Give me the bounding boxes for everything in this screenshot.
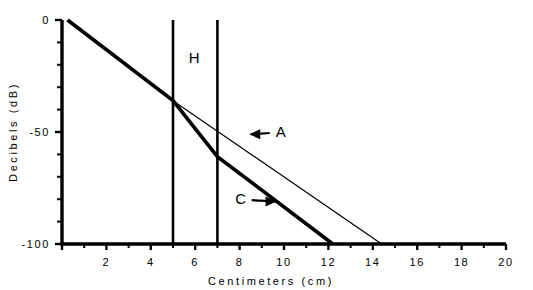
chart-canvas: HAC 24681012141618200-50-100 Centimeters… (0, 0, 533, 290)
x-axis-tick-label: 8 (236, 256, 244, 268)
chart-figure: HAC 24681012141618200-50-100 Centimeters… (0, 0, 533, 290)
x-axis-title: Centimeters (cm) (208, 275, 334, 287)
annotation-arrow-head-a (251, 130, 260, 138)
annotation-label-c: C (235, 190, 246, 207)
annotation-label-h: H (189, 49, 200, 66)
data-series-group (68, 20, 382, 244)
x-axis-tick-label: 18 (454, 256, 469, 268)
annotation-label-a: A (276, 123, 286, 140)
x-axis-tick-label: 20 (498, 256, 513, 268)
x-axis-tick-label: 6 (191, 256, 199, 268)
x-axis-tick-label: 14 (365, 256, 380, 268)
y-axis-tick-label: 0 (42, 14, 50, 26)
x-axis-tick-label: 12 (321, 256, 336, 268)
y-axis-title: Decibels (dB) (7, 82, 19, 182)
x-axis-tick-label: 16 (409, 256, 424, 268)
y-axis-tick-label: -100 (22, 238, 50, 250)
annotations-group: HAC (189, 49, 286, 207)
x-axis-tick-label: 10 (276, 256, 291, 268)
tick-labels-group: 24681012141618200-50-100 (22, 14, 514, 268)
x-axis-tick-label: 2 (103, 256, 111, 268)
x-axis-tick-label: 4 (147, 256, 155, 268)
y-axis-tick-label: -50 (29, 126, 50, 138)
series-line-c (68, 20, 333, 244)
